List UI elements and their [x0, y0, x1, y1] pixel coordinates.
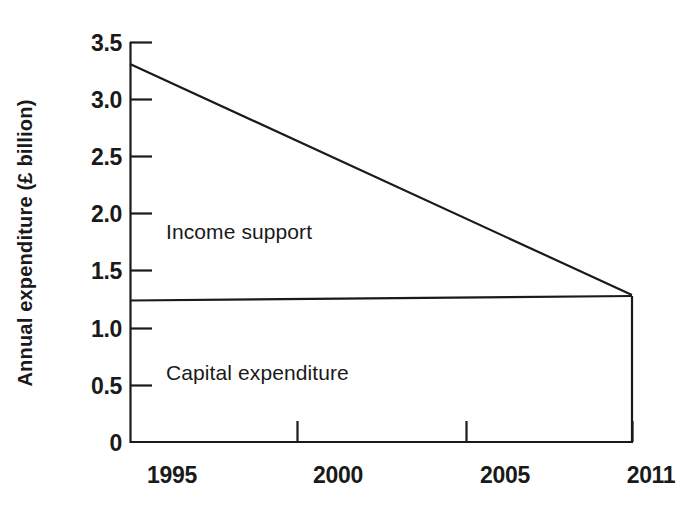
x-tick-label-2011: 2011 — [627, 462, 676, 488]
y-tick-label-0-5: 0.5 — [91, 373, 123, 399]
y-tick-label-3-0: 3.0 — [91, 87, 122, 113]
x-tick-labels: 1995 2000 2005 2011 — [147, 462, 676, 488]
y-tick-label-1-0: 1.0 — [91, 316, 122, 342]
chart-figure: 3.5 3.0 2.5 2.0 1.5 1.0 0.5 0 1995 2000 … — [0, 0, 696, 516]
y-tick-label-0: 0 — [110, 430, 123, 456]
x-tick-label-2005: 2005 — [480, 462, 530, 488]
x-tick-label-2000: 2000 — [313, 462, 363, 488]
area-chart: 3.5 3.0 2.5 2.0 1.5 1.0 0.5 0 1995 2000 … — [0, 0, 696, 516]
series-label-capital-expenditure: Capital expenditure — [166, 361, 349, 384]
x-tick-label-1995: 1995 — [147, 462, 197, 488]
y-tick-label-1-5: 1.5 — [91, 258, 123, 284]
y-axis-title: Annual expenditure (£ billion) — [14, 99, 36, 386]
series-label-income-support: Income support — [166, 220, 312, 243]
y-tick-label-2-5: 2.5 — [91, 144, 123, 170]
y-tick-labels: 3.5 3.0 2.5 2.0 1.5 1.0 0.5 0 — [91, 30, 123, 456]
y-tick-label-2-0: 2.0 — [91, 201, 122, 227]
y-tick-label-3-5: 3.5 — [91, 30, 123, 56]
